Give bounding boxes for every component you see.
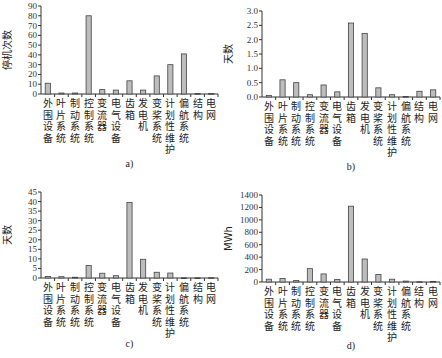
y-tick-label: 0	[33, 273, 38, 283]
category-label: 航	[401, 297, 411, 309]
category-label: 护	[165, 327, 175, 339]
bar	[127, 203, 132, 278]
bar	[195, 94, 200, 95]
bar	[59, 93, 64, 94]
bar	[376, 88, 381, 97]
category-label: 统	[373, 320, 383, 332]
y-tick-label: 30	[28, 216, 38, 226]
category-label: 箱	[125, 109, 135, 121]
category-label: 片	[56, 109, 66, 121]
category-label: 护	[387, 146, 397, 158]
category-label: 变	[152, 97, 162, 109]
bar	[417, 282, 422, 283]
category-label: 设	[43, 305, 53, 316]
category-label: 系	[305, 309, 315, 320]
category-label: 系	[70, 305, 80, 316]
bar	[154, 76, 159, 94]
category-label: 围	[264, 113, 274, 124]
category-label: 维	[165, 316, 175, 328]
category-label: 电	[111, 97, 121, 109]
category-label: 备	[332, 135, 342, 147]
category-label: 变	[373, 285, 383, 297]
category-label: 发	[360, 100, 370, 112]
category-label: 动	[291, 298, 301, 309]
category-label: 制	[84, 109, 94, 121]
chart-a: 0102030405060708090停机次数外围设备叶片系统制动系统控制系统变…	[1, 1, 218, 170]
category-label: 气	[111, 293, 121, 305]
category-label: 网	[206, 294, 216, 305]
bar	[127, 81, 132, 94]
bar	[59, 277, 64, 278]
category-label: 备	[264, 135, 274, 147]
bar	[209, 278, 214, 279]
category-label: 划	[387, 297, 397, 309]
y-tick-label: 1.0	[247, 63, 259, 73]
bar	[431, 90, 436, 97]
category-label: 系	[84, 121, 94, 132]
bar	[376, 275, 381, 282]
category-label: 机	[138, 304, 148, 316]
chart-d: 0200400600800100012001400MWh外围设备叶片系统制动系统…	[223, 190, 440, 352]
category-label: 箱	[346, 112, 356, 124]
category-label: 统	[179, 132, 189, 144]
category-label: 性	[165, 304, 175, 316]
category-label: 动	[70, 294, 80, 305]
bar	[195, 278, 200, 279]
bar	[335, 92, 340, 97]
category-label: 制	[70, 281, 80, 293]
category-label: 性	[387, 123, 397, 135]
category-label: 设	[264, 309, 274, 320]
category-label: 网	[206, 110, 216, 121]
bar	[348, 206, 353, 282]
bar	[168, 65, 173, 94]
bar	[141, 259, 146, 278]
category-label: 变	[319, 100, 329, 112]
category-label: 航	[179, 109, 189, 121]
bar	[294, 83, 299, 97]
category-label: 器	[97, 305, 107, 316]
bar	[181, 54, 186, 94]
bar	[100, 90, 105, 94]
category-label: 统	[84, 316, 94, 328]
category-label: 机	[360, 308, 370, 320]
category-label: 电	[206, 97, 216, 109]
category-label: 维	[165, 132, 175, 144]
category-label: 统	[84, 132, 94, 144]
category-label: 叶	[56, 98, 66, 109]
bar	[266, 279, 271, 282]
bar	[45, 276, 50, 278]
y-tick-label: 1000	[240, 215, 259, 225]
y-tick-label: 2.5	[247, 20, 259, 30]
category-label: 流	[97, 109, 107, 121]
y-tick-label: 0.5	[247, 78, 259, 88]
category-label: 设	[43, 121, 53, 132]
category-label: 结	[193, 97, 203, 109]
category-label: 桨	[152, 109, 162, 121]
category-label: 统	[305, 135, 315, 147]
category-label: 结	[193, 281, 203, 293]
bar	[209, 94, 214, 95]
category-label: 流	[97, 293, 107, 305]
category-label: 计	[387, 100, 397, 112]
bar	[181, 278, 186, 279]
chart-c: 051015202530354045天数外围设备叶片系统制动系统控制系统变流器电…	[1, 187, 218, 350]
category-label: 系	[291, 309, 301, 320]
category-label: 统	[278, 135, 288, 147]
category-label: 航	[179, 293, 189, 305]
category-label: 系	[179, 121, 189, 132]
y-tick-label: 25	[28, 225, 38, 235]
category-label: 偏	[401, 100, 411, 112]
category-label: 设	[332, 124, 342, 135]
y-tick-label: 20	[28, 69, 38, 79]
category-label: 系	[179, 305, 189, 316]
category-label: 统	[179, 316, 189, 328]
category-label: 电	[428, 100, 438, 112]
category-label: 电	[332, 285, 342, 297]
category-label: 护	[387, 331, 397, 343]
bar	[417, 91, 422, 97]
category-label: 统	[56, 132, 66, 144]
category-label: 统	[373, 135, 383, 147]
category-label: 发	[138, 97, 148, 109]
category-label: 围	[43, 110, 53, 121]
category-label: 动	[291, 113, 301, 124]
